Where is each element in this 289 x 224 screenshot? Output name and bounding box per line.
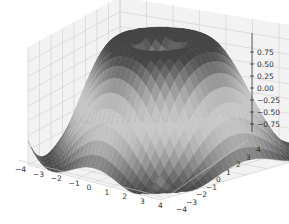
x-tick-label: −4	[15, 165, 26, 174]
z-tick-label: 0.25	[257, 72, 274, 81]
z-tick-label: 0.75	[257, 48, 274, 57]
x-tick-label: 4	[158, 201, 163, 210]
x-tick-label: 0	[87, 183, 92, 192]
x-tick-label: −3	[33, 170, 44, 179]
x-tick-label: 2	[122, 192, 127, 201]
x-tick-label: −1	[69, 179, 80, 188]
x-tick-label: 1	[104, 188, 109, 197]
y-tick-label: 4	[256, 145, 261, 154]
z-tick-label: −0.25	[257, 96, 280, 105]
y-tick-label: 2	[236, 160, 241, 169]
y-tick-label: 1	[226, 168, 231, 177]
z-tick-label: 0.00	[257, 84, 274, 93]
z-tick-label: −0.75	[257, 120, 280, 129]
y-tick-label: 0	[216, 175, 221, 184]
x-tick-label: 3	[140, 197, 145, 206]
x-tick-label: −2	[51, 174, 62, 183]
z-tick-label: 0.50	[257, 60, 274, 69]
surface-plot-3d: 0.750.500.250.00−0.25−0.50−0.75 −4−3−2−1…	[0, 0, 289, 224]
z-tick-label: −0.50	[257, 108, 280, 117]
y-tick-label: 3	[246, 153, 251, 162]
